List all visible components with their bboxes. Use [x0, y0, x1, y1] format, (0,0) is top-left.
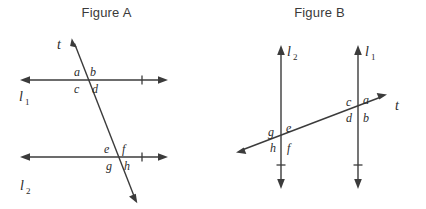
- figure-b-diagram: l 2 l 1 t c a d b g e h f: [213, 0, 426, 209]
- line-label-l2-text: l: [20, 178, 24, 193]
- angle-label-c-figure-a: c: [74, 82, 80, 96]
- line-label-l1-figure-a: l 1: [19, 89, 30, 107]
- angle-label-g-figure-a: g: [106, 159, 112, 173]
- line-label-l2-text: l: [287, 44, 291, 59]
- angle-label-g-figure-b: g: [268, 125, 274, 139]
- figure-a-diagram: l 1 l 2 t a b c d e f g h: [0, 0, 213, 209]
- geometry-figure-canvas: Figure A Figure B l 1 l: [0, 0, 426, 209]
- line-label-l1-text: l: [19, 89, 23, 104]
- line-label-l1-subscript: 1: [25, 97, 30, 107]
- line-label-l1-text: l: [365, 44, 369, 59]
- angle-label-b-figure-b: b: [363, 111, 369, 125]
- angle-label-a-figure-b: a: [363, 93, 369, 107]
- angle-label-c-figure-b: c: [346, 95, 352, 109]
- angle-label-d-figure-a: d: [92, 82, 99, 96]
- angle-label-d-figure-b: d: [346, 111, 353, 125]
- line-l2-figure-b: [277, 45, 286, 189]
- angle-label-a-figure-a: a: [74, 65, 80, 79]
- angle-label-e-figure-b: e: [286, 121, 292, 135]
- line-label-l2-subscript: 2: [26, 186, 31, 196]
- angle-label-b-figure-a: b: [90, 65, 96, 79]
- line-label-l2-figure-b: l 2: [287, 44, 298, 62]
- transversal-t-figure-a: [70, 38, 137, 203]
- line-l2-figure-a: [20, 153, 168, 162]
- line-label-t-figure-b: t: [395, 98, 400, 113]
- line-label-l1-subscript: 1: [371, 52, 376, 62]
- angle-label-f-figure-b: f: [287, 141, 292, 155]
- angle-label-h-figure-a: h: [124, 159, 130, 173]
- line-label-t-figure-a: t: [57, 37, 62, 52]
- line-label-l1-figure-b: l 1: [365, 44, 376, 62]
- line-label-l2-subscript: 2: [293, 52, 298, 62]
- angle-label-h-figure-b: h: [270, 141, 276, 155]
- angle-label-e-figure-a: e: [104, 142, 110, 156]
- line-l1-figure-b: [354, 45, 363, 189]
- line-label-l2-figure-a: l 2: [20, 178, 31, 196]
- angle-label-f-figure-a: f: [122, 142, 127, 156]
